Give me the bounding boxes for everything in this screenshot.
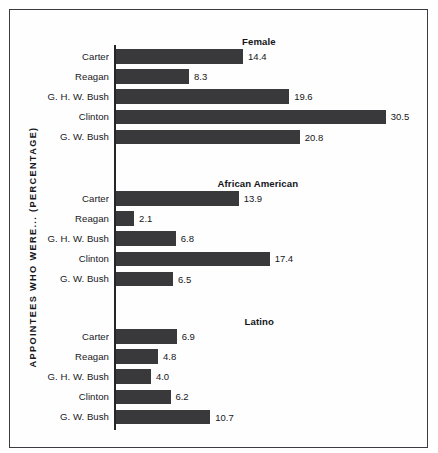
bar <box>116 130 300 145</box>
bar-category-label: Carter <box>82 193 109 204</box>
bar-category-label: Reagan <box>75 71 109 82</box>
bar <box>116 211 135 226</box>
bar <box>116 329 177 344</box>
bar <box>116 410 211 425</box>
bar-row: Carter14.4 <box>114 48 428 68</box>
bar-value-label: 14.4 <box>248 51 267 62</box>
panel-title: African American <box>218 178 299 189</box>
bar-row: G. H. W. Bush6.8 <box>114 230 428 250</box>
bar-category-label: G. W. Bush <box>60 411 109 422</box>
bar <box>116 89 290 104</box>
bar-category-label: G. W. Bush <box>60 273 109 284</box>
panel-rows: Carter13.9Reagan2.1G. H. W. Bush6.8Clint… <box>114 190 428 291</box>
bar <box>116 110 386 125</box>
bar-category-label: Reagan <box>75 351 109 362</box>
bar-row: Clinton17.4 <box>114 251 428 271</box>
bar-category-label: G. H. W. Bush <box>48 233 109 244</box>
bar-value-label: 4.0 <box>156 371 169 382</box>
bar-category-label: G. H. W. Bush <box>48 91 109 102</box>
panel-title: Female <box>242 36 276 47</box>
bar <box>116 231 176 246</box>
bar-value-label: 6.2 <box>175 391 188 402</box>
bar-row: G. W. Bush6.5 <box>114 271 428 291</box>
y-axis-label: APPOINTEES WHO WERE... (PERCENTAGE) <box>28 122 38 372</box>
bar-category-label: Carter <box>82 331 109 342</box>
bar-row: Reagan2.1 <box>114 210 428 230</box>
bar-value-label: 10.7 <box>215 412 234 423</box>
bar <box>116 390 171 405</box>
bar-value-label: 19.6 <box>294 91 313 102</box>
bar-value-label: 6.9 <box>182 331 195 342</box>
bar-value-label: 17.4 <box>275 253 294 264</box>
bar-row: G. H. W. Bush19.6 <box>114 88 428 108</box>
bar-value-label: 13.9 <box>244 193 263 204</box>
bar-row: G. W. Bush10.7 <box>114 409 428 429</box>
bar <box>116 272 174 287</box>
bar-category-label: Reagan <box>75 213 109 224</box>
bar-category-label: G. W. Bush <box>60 131 109 142</box>
bar-row: G. W. Bush20.8 <box>114 129 428 149</box>
chart-frame: APPOINTEES WHO WERE... (PERCENTAGE) Fema… <box>9 9 428 448</box>
bar <box>116 349 159 364</box>
panel-title: Latino <box>245 316 274 327</box>
bar <box>116 69 190 84</box>
bar-row: Carter13.9 <box>114 190 428 210</box>
bar <box>116 369 151 384</box>
bar-row: Reagan8.3 <box>114 68 428 88</box>
bar-category-label: Carter <box>82 51 109 62</box>
bar-row: Carter6.9 <box>114 328 428 348</box>
bar-value-label: 30.5 <box>391 111 410 122</box>
bar-row: Clinton6.2 <box>114 389 428 409</box>
bar-value-label: 2.1 <box>139 213 152 224</box>
bar-category-label: G. H. W. Bush <box>48 371 109 382</box>
bar-value-label: 4.8 <box>163 351 176 362</box>
bar-row: Clinton30.5 <box>114 109 428 129</box>
bar <box>116 252 270 267</box>
bar <box>116 49 244 64</box>
chart-figure: APPOINTEES WHO WERE... (PERCENTAGE) Fema… <box>0 0 438 453</box>
plot-area: FemaleCarter14.4Reagan8.3G. H. W. Bush19… <box>114 36 428 426</box>
panel-rows: Carter6.9Reagan4.8G. H. W. Bush4.0Clinto… <box>114 328 428 429</box>
bar-value-label: 6.8 <box>181 233 194 244</box>
bar-value-label: 6.5 <box>178 274 191 285</box>
bar-category-label: Clinton <box>79 253 109 264</box>
bar-category-label: Clinton <box>79 111 109 122</box>
bar-value-label: 8.3 <box>194 71 207 82</box>
bar <box>116 191 239 206</box>
bar-category-label: Clinton <box>79 391 109 402</box>
bar-row: Reagan4.8 <box>114 348 428 368</box>
panel-rows: Carter14.4Reagan8.3G. H. W. Bush19.6Clin… <box>114 48 428 149</box>
bar-row: G. H. W. Bush4.0 <box>114 368 428 388</box>
bar-value-label: 20.8 <box>305 132 324 143</box>
